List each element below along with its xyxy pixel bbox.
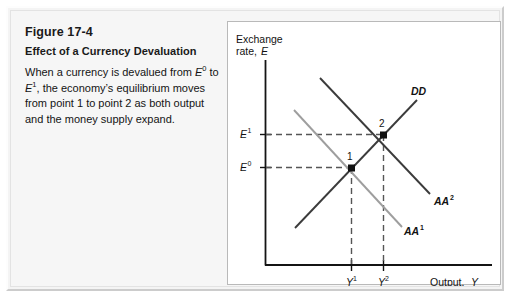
y-axis-label-symbol: E [261, 45, 269, 57]
description-text-part1: When a currency is devalued from [25, 66, 195, 78]
equilibrium-point-1-marker [348, 165, 355, 172]
x-tick-label-y2-superscript: 2 [385, 275, 389, 282]
curve-label-aa1-superscript: 1 [420, 224, 424, 231]
x-tick-label-y1-superscript: 1 [353, 275, 357, 282]
figure-description: When a currency is devalued from E0 to E… [25, 65, 221, 127]
y-axis-label-line1: Exchange [236, 33, 283, 45]
y-axis-label-line2: rate, [236, 45, 257, 57]
figure-title: Effect of a Currency Devaluation [25, 44, 221, 58]
curve-label-aa2-superscript: 2 [450, 194, 454, 201]
y-tick-label-e1-superscript: 1 [248, 127, 252, 134]
figure-frame: Figure 17-4 Effect of a Currency Devalua… [6, 6, 504, 291]
curve-dd [295, 100, 417, 228]
caption-column: Figure 17-4 Effect of a Currency Devalua… [25, 25, 221, 127]
description-text-mid: to [206, 66, 218, 78]
equilibrium-point-2-label: 2 [379, 118, 385, 129]
curve-label-dd: DD [411, 85, 427, 97]
equilibrium-point-2-marker [380, 132, 387, 139]
figure-number: Figure 17-4 [25, 25, 221, 40]
description-text-part2: , the economy’s equilibrium moves from p… [25, 82, 205, 125]
equilibrium-point-1-label: 1 [347, 151, 353, 162]
x-axis-label-symbol: Y [471, 276, 479, 286]
curve-label-aa1: AA [403, 225, 419, 237]
chart-panel: Exchange rate, E E 1 E 0 Y 1 Y [227, 21, 501, 285]
figure-inner-panel: Figure 17-4 Effect of a Currency Devalua… [10, 10, 500, 287]
chart-svg: Exchange rate, E E 1 E 0 Y 1 Y [228, 22, 502, 286]
y-tick-label-e0-superscript: 0 [248, 160, 252, 167]
curve-label-aa2: AA [433, 195, 449, 207]
x-axis-label: Output, [430, 276, 464, 286]
